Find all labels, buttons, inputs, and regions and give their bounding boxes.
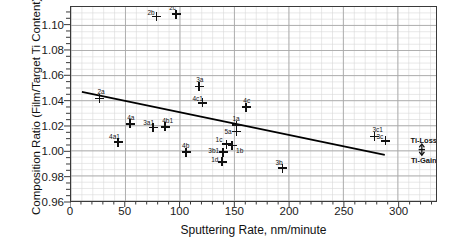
y-tick-label: 1.06 [0,69,64,81]
y-tick-label: 0.96 [0,196,64,208]
y-tick-label: 1.10 [0,19,64,31]
y-tick-label: 1.00 [0,145,64,157]
annotation-ti-gain: Ti-Gain [411,156,437,165]
y-tick-label: 1.08 [0,44,64,56]
plot-area: 2a2b2c4a14a3a14b13a4c14b4c1a5a1c1b3b11d3… [70,6,437,202]
x-axis-tick-marks [70,202,437,210]
composition-ratio-scatter-chart: Composition Ratio (Film/Target Ti Conten… [0,0,451,247]
y-tick-label: 1.04 [0,95,64,107]
ti-loss-gain-double-arrow-icon [71,7,436,201]
annotation-ti-loss: Ti-Loss [410,136,437,145]
y-tick-label: 1.02 [0,120,64,132]
y-tick-label: 0.98 [0,171,64,183]
ti-loss-gain-annotation: Ti-LossTi-Gain [71,7,436,201]
x-axis-title: Sputtering Rate, nm/minute [70,223,437,237]
y-axis-tick-labels: 0.960.981.001.021.041.061.081.10 [0,0,70,247]
